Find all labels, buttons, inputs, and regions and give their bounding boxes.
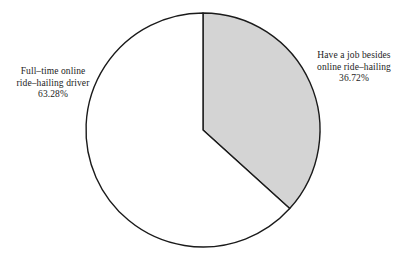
pie-label-left-line1: Full–time online bbox=[2, 66, 104, 78]
pie-label-have-a-job-besides: Have a job besides online ride–hailing 3… bbox=[302, 50, 406, 85]
pie-chart-figure: Full–time online ride–hailing driver 63.… bbox=[0, 0, 406, 260]
pie-label-right-line1: Have a job besides bbox=[302, 50, 406, 62]
pie-label-right-line2: online ride–hailing bbox=[302, 62, 406, 74]
pie-label-full-time-driver: Full–time online ride–hailing driver 63.… bbox=[2, 66, 104, 101]
pie-label-left-line2: ride–hailing driver bbox=[2, 78, 104, 90]
pie-label-left-value: 63.28% bbox=[2, 89, 104, 101]
pie-label-right-value: 36.72% bbox=[302, 73, 406, 85]
pie-chart-graphic bbox=[0, 0, 406, 260]
